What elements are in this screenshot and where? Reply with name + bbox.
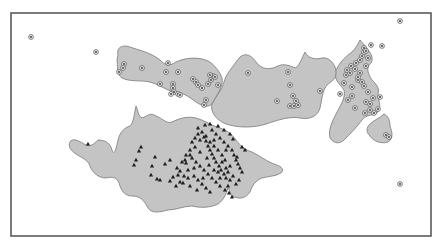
- circle-dot-marker: [246, 71, 251, 76]
- circle-dot-marker: [288, 83, 293, 88]
- circle-dot-marker: [364, 49, 369, 54]
- circle-dot-marker: [318, 89, 323, 94]
- circle-dot-marker: [349, 64, 354, 69]
- circle-dot-marker: [121, 66, 126, 71]
- circle-dot-marker: [178, 93, 183, 98]
- circle-dot-marker: [158, 82, 163, 87]
- circle-dot-marker: [364, 64, 369, 69]
- circle-dot-marker: [372, 111, 377, 116]
- distribution-map: [0, 0, 440, 246]
- circle-dot-marker: [387, 135, 392, 140]
- circle-dot-marker: [204, 98, 209, 103]
- circle-dot-marker: [164, 70, 169, 75]
- circle-dot-marker: [176, 70, 181, 75]
- circle-dot-marker: [294, 99, 299, 104]
- circle-dot-marker: [338, 92, 343, 97]
- circle-dot-marker: [376, 107, 381, 112]
- circle-dot-marker: [94, 50, 99, 55]
- circle-dot-marker: [140, 66, 145, 71]
- circle-dot-marker: [353, 106, 358, 111]
- circle-dot-marker: [378, 95, 383, 100]
- circle-dot-marker: [363, 111, 368, 116]
- circle-dot-marker: [364, 100, 369, 105]
- circle-dot-marker: [202, 103, 207, 108]
- circle-dot-marker: [29, 35, 34, 40]
- circle-dot-marker: [398, 182, 403, 187]
- circle-dot-marker: [286, 70, 291, 75]
- circle-dot-marker: [345, 68, 350, 73]
- circle-dot-marker: [380, 44, 385, 49]
- circle-dot-marker: [350, 94, 355, 99]
- circle-dot-marker: [369, 43, 374, 48]
- circle-dot-marker: [371, 96, 376, 101]
- circle-dot-marker: [216, 83, 221, 88]
- circle-dot-marker: [275, 99, 280, 104]
- circle-dot-marker: [346, 98, 351, 103]
- circle-dot-marker: [350, 85, 355, 90]
- circle-dot-marker: [398, 19, 403, 24]
- circle-dot-marker: [366, 90, 371, 95]
- circle-dot-marker: [213, 75, 218, 80]
- circle-dot-marker: [200, 86, 205, 91]
- circle-dot-marker: [117, 70, 122, 75]
- circle-dot-marker: [208, 73, 213, 78]
- circle-dot-marker: [366, 56, 371, 61]
- circle-dot-marker: [169, 92, 174, 97]
- circle-dot-marker: [342, 81, 347, 86]
- circle-dot-marker: [291, 94, 296, 99]
- circle-dot-marker: [356, 75, 361, 80]
- circle-dot-marker: [362, 84, 367, 89]
- circle-dot-marker: [166, 61, 171, 66]
